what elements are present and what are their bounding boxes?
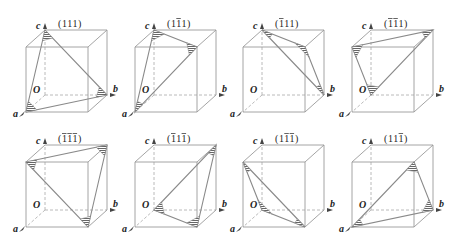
axis-label-b: b [330, 83, 335, 94]
a-axis-arrow-icon [345, 111, 351, 117]
svg-text:): ) [78, 18, 81, 30]
plane-triangle [26, 145, 107, 227]
svg-text:1: 1 [62, 18, 67, 29]
crystal-planes-figure: cbaO(111)cbaO(111)cbaO(111)cbaO(111)cbaO… [0, 0, 457, 245]
axis-label-c: c [36, 135, 41, 146]
cube-diagram: cbaO(111) [122, 133, 227, 234]
svg-text:): ) [78, 133, 81, 145]
axis-label-a: a [13, 223, 18, 234]
axis-label-a: a [230, 108, 235, 119]
plane-triangle [243, 162, 305, 227]
svg-text:1: 1 [393, 18, 398, 29]
axis-label-c: c [362, 20, 367, 31]
origin-label: O [250, 84, 257, 95]
svg-text:): ) [295, 18, 298, 30]
cube-diagram: cbaO(111) [339, 18, 444, 119]
c-axis-arrow-icon [369, 23, 373, 29]
cube-diagram: cbaO(111) [13, 133, 118, 234]
c-axis-arrow-icon [152, 138, 156, 144]
cropped-caption [150, 0, 360, 2]
a-axis-arrow-icon [19, 111, 25, 117]
svg-text:1: 1 [182, 133, 187, 144]
origin-label: O [359, 84, 366, 95]
svg-text:1: 1 [290, 18, 295, 29]
axis-label-a: a [13, 108, 18, 119]
angle-hatch [43, 30, 53, 41]
c-axis-arrow-icon [369, 138, 373, 144]
angle-hatch [243, 162, 251, 172]
axis-label-a: a [122, 223, 127, 234]
c-axis-arrow-icon [43, 23, 47, 29]
axis-label-b: b [439, 83, 444, 94]
svg-text:1: 1 [399, 133, 404, 144]
cube-grid: cbaO(111)cbaO(111)cbaO(111)cbaO(111)cbaO… [0, 0, 457, 245]
svg-text:1: 1 [393, 133, 398, 144]
c-axis-arrow-icon [260, 138, 264, 144]
miller-index-label: (111) [275, 18, 298, 30]
plane-triangle [262, 30, 324, 95]
svg-text:1: 1 [171, 18, 176, 29]
axis-label-c: c [253, 135, 258, 146]
cube-diagram: cbaO(111) [230, 18, 335, 119]
svg-text:): ) [187, 133, 190, 145]
axis-label-b: b [439, 198, 444, 209]
plane-triangle [154, 145, 216, 227]
cube-diagram: cbaO(111) [230, 133, 335, 234]
plane-triangle [135, 30, 197, 112]
miller-index-label: (111) [384, 133, 407, 145]
origin-label: O [250, 199, 257, 210]
cube-diagram: cbaO(111) [339, 133, 444, 234]
a-axis-arrow-icon [128, 226, 134, 232]
miller-index-label: (111) [384, 18, 407, 30]
c-axis-arrow-icon [152, 23, 156, 29]
svg-text:): ) [404, 18, 407, 30]
miller-index-label: (111) [167, 18, 190, 30]
svg-text:1: 1 [388, 133, 393, 144]
angle-hatch [262, 30, 272, 38]
svg-text:1: 1 [284, 133, 289, 144]
miller-index-label: (111) [58, 18, 81, 30]
axis-label-c: c [253, 20, 258, 31]
svg-text:1: 1 [388, 18, 393, 29]
svg-text:1: 1 [279, 18, 284, 29]
svg-text:): ) [404, 133, 407, 145]
c-axis-arrow-icon [43, 138, 47, 144]
miller-index-label: (111) [58, 133, 81, 145]
svg-text:1: 1 [62, 133, 67, 144]
axis-label-b: b [222, 198, 227, 209]
svg-text:): ) [187, 18, 190, 30]
svg-text:1: 1 [279, 133, 284, 144]
angle-hatch [152, 30, 165, 41]
angle-hatch [367, 85, 379, 95]
angle-hatch [80, 216, 90, 227]
axis-label-b: b [222, 83, 227, 94]
svg-text:1: 1 [284, 18, 289, 29]
svg-text:1: 1 [67, 133, 72, 144]
svg-text:1: 1 [171, 133, 176, 144]
svg-text:1: 1 [182, 18, 187, 29]
cube-diagram: cbaO(111) [13, 18, 118, 119]
axis-label-c: c [362, 135, 367, 146]
origin-label: O [142, 84, 149, 95]
axis-label-a: a [339, 223, 344, 234]
miller-index-label: (111) [167, 133, 190, 145]
plane-triangle [26, 30, 107, 112]
angle-hatch [352, 45, 363, 57]
axis-label-b: b [330, 198, 335, 209]
angle-hatch [295, 219, 305, 227]
svg-text:1: 1 [399, 18, 404, 29]
axis-label-c: c [36, 20, 41, 31]
svg-text:1: 1 [73, 18, 78, 29]
plane-triangle [352, 162, 433, 227]
miller-index-label: (111) [275, 133, 298, 145]
angle-hatch [406, 162, 418, 172]
axis-label-a: a [122, 108, 127, 119]
svg-text:1: 1 [176, 133, 181, 144]
a-axis-arrow-icon [236, 111, 242, 117]
axis-label-b: b [113, 198, 118, 209]
angle-hatch [316, 85, 324, 95]
svg-text:1: 1 [73, 133, 78, 144]
angle-hatch [422, 200, 433, 212]
a-axis-arrow-icon [236, 226, 242, 232]
origin-label: O [142, 199, 149, 210]
